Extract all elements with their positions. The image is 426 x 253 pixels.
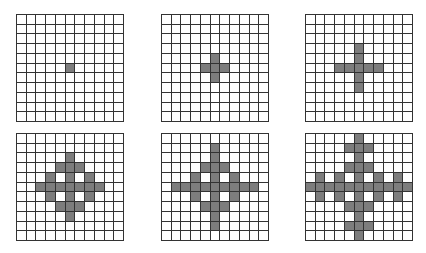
empty-cell [181,231,191,241]
empty-cell [345,153,355,163]
empty-cell [75,83,85,93]
empty-cell [250,222,260,232]
empty-cell [316,103,326,113]
empty-cell [17,44,27,54]
filled-cell [345,222,355,232]
empty-cell [46,73,56,83]
empty-cell [66,103,76,113]
empty-cell [230,231,240,241]
filled-cell [211,73,221,83]
filled-cell [181,183,191,193]
empty-cell [220,44,230,54]
empty-cell [306,54,316,64]
empty-cell [191,144,201,154]
empty-cell [36,44,46,54]
empty-cell [345,73,355,83]
empty-cell [114,93,124,103]
filled-cell [85,192,95,202]
empty-cell [403,34,413,44]
empty-cell [56,103,66,113]
filled-cell [191,183,201,193]
empty-cell [316,15,326,25]
empty-cell [259,134,269,144]
empty-cell [335,202,345,212]
empty-cell [114,212,124,222]
empty-cell [27,231,37,241]
empty-cell [250,64,260,74]
empty-cell [394,15,404,25]
empty-cell [85,15,95,25]
empty-cell [162,153,172,163]
empty-cell [374,222,384,232]
empty-cell [75,144,85,154]
empty-cell [403,64,413,74]
empty-cell [316,222,326,232]
empty-cell [325,144,335,154]
empty-cell [181,73,191,83]
filled-cell [355,134,365,144]
empty-cell [95,192,105,202]
filled-cell [211,173,221,183]
filled-cell [335,173,345,183]
empty-cell [335,93,345,103]
empty-cell [250,25,260,35]
empty-cell [181,153,191,163]
empty-cell [85,144,95,154]
empty-cell [384,222,394,232]
empty-cell [325,153,335,163]
empty-cell [27,212,37,222]
empty-cell [230,83,240,93]
empty-cell [27,73,37,83]
empty-cell [181,222,191,232]
empty-cell [66,54,76,64]
empty-cell [85,202,95,212]
empty-cell [316,202,326,212]
filled-cell [355,144,365,154]
empty-cell [172,64,182,74]
empty-cell [306,64,316,74]
empty-cell [191,25,201,35]
empty-cell [240,25,250,35]
empty-cell [191,103,201,113]
empty-cell [316,231,326,241]
empty-cell [240,54,250,64]
empty-cell [75,54,85,64]
empty-cell [201,144,211,154]
empty-cell [162,83,172,93]
empty-cell [384,134,394,144]
empty-cell [66,93,76,103]
empty-cell [394,25,404,35]
filled-cell [230,173,240,183]
empty-cell [335,222,345,232]
empty-cell [172,93,182,103]
filled-cell [355,202,365,212]
empty-cell [56,25,66,35]
empty-cell [56,192,66,202]
empty-cell [394,163,404,173]
filled-cell [355,153,365,163]
empty-cell [56,15,66,25]
empty-cell [105,231,115,241]
empty-cell [259,83,269,93]
empty-cell [36,93,46,103]
empty-cell [172,25,182,35]
empty-cell [27,144,37,154]
empty-cell [181,44,191,54]
empty-cell [306,44,316,54]
empty-cell [114,192,124,202]
empty-cell [306,103,316,113]
empty-cell [95,15,105,25]
empty-cell [250,153,260,163]
empty-cell [46,144,56,154]
empty-cell [355,25,365,35]
empty-cell [17,15,27,25]
empty-cell [191,93,201,103]
empty-cell [403,212,413,222]
empty-cell [191,44,201,54]
filled-cell [345,144,355,154]
panel-4-grid [16,133,124,241]
empty-cell [66,44,76,54]
empty-cell [75,15,85,25]
empty-cell [211,83,221,93]
filled-cell [355,231,365,241]
